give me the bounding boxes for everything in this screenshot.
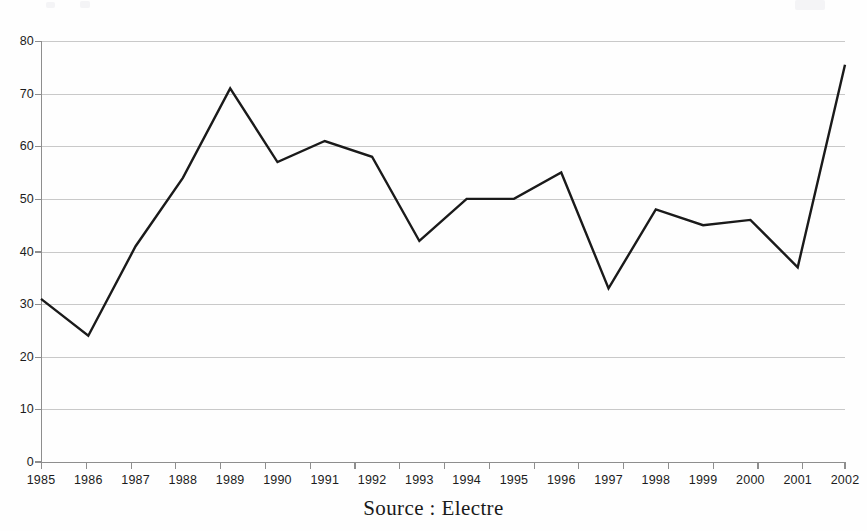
x-tick-2002: 2002 [815, 473, 867, 487]
line-chart-figure: 80 70 60 50 40 30 20 10 0 19851986198719… [0, 0, 867, 531]
chart-page: 80 70 60 50 40 30 20 10 0 19851986198719… [0, 0, 867, 531]
source-caption: Source : Electre [0, 496, 867, 521]
x-axis-labels: 1985198619871988198919901991199219931994… [0, 0, 867, 531]
